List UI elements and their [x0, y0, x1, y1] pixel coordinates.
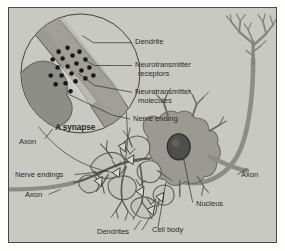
- label-axon-inset: Axon: [19, 138, 36, 147]
- label-neurotransmitter-receptors-line2: receptors: [135, 70, 221, 79]
- label-nerve-endings: Nerve endings: [15, 171, 63, 180]
- label-neurotransmitter-receptors-line1: Neurotransmitter: [135, 60, 191, 69]
- label-cell-body: Cell body: [152, 226, 183, 235]
- axon-left-fiber: [9, 183, 75, 190]
- label-neurotransmitter-molecules-line2: molecules: [135, 97, 221, 106]
- label-neurotransmitter-molecules: Neurotransmitter molecules: [135, 88, 221, 105]
- label-neurotransmitter-molecules-line1: Neurotransmitter: [135, 87, 191, 96]
- label-nucleus: Nucleus: [196, 200, 223, 209]
- dendrite-tree-upper-right: [226, 14, 276, 64]
- neuron-synapse-figure: Dendrite Neurotransmitter receptors Neur…: [0, 0, 285, 251]
- label-dendrite: Dendrite: [135, 38, 163, 47]
- label-nerve-ending: Nerve ending: [133, 115, 178, 124]
- label-dendrites: Dendrites: [97, 228, 129, 237]
- synapse-inset-circle: [13, 8, 140, 139]
- label-neurotransmitter-receptors: Neurotransmitter receptors: [135, 61, 221, 78]
- diagram-plate: Dendrite Neurotransmitter receptors Neur…: [8, 7, 277, 243]
- nucleus-shape: [167, 134, 190, 160]
- label-axon-right: Axon: [241, 171, 258, 180]
- label-a-synapse: A synapse: [55, 124, 95, 133]
- label-axon-left: Axon: [25, 191, 42, 200]
